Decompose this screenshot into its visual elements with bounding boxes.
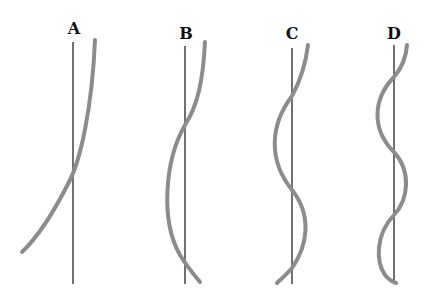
wave-curve-b (167, 42, 205, 282)
wave-curve-a (22, 40, 95, 252)
label-d: D (387, 24, 401, 43)
label-b: B (179, 24, 193, 43)
wave-diagram: A B C D (0, 0, 428, 289)
wave-curve-d (378, 45, 408, 283)
panel-d (378, 45, 408, 284)
label-c: C (286, 24, 299, 43)
panel-a (22, 40, 95, 284)
wave-curve-c (275, 45, 308, 283)
diagram-svg (0, 0, 428, 289)
panel-c (275, 45, 308, 284)
panel-b (167, 42, 205, 284)
label-a: A (68, 19, 80, 38)
